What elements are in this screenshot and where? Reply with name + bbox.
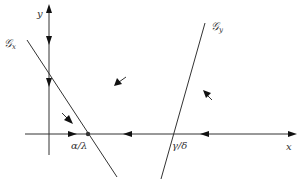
flow-arrow-down-icon: [46, 36, 52, 45]
point-gamma-delta-label: γ/δ: [172, 140, 187, 151]
x-axis-label: x: [286, 141, 292, 152]
flow-arrow-up-left-icon: [203, 90, 212, 100]
flow-arrow-right-icon: [68, 131, 77, 137]
flow-arrow-down-left-icon: [114, 77, 126, 86]
nullcline-gx: [27, 40, 117, 177]
flow-arrow-down-right-icon: [62, 113, 73, 124]
nullcline-gx-label: 𝒢x: [4, 37, 16, 51]
x-axis-arrow-icon: [288, 131, 297, 137]
flow-arrow-left-icon: [123, 131, 132, 137]
y-axis-arrow-icon: [46, 4, 52, 13]
equilibrium-point: [86, 132, 90, 136]
flow-arrow-left-icon: [200, 131, 209, 137]
nullcline-gy: [161, 23, 205, 179]
y-axis: [46, 4, 52, 155]
y-axis-label: y: [36, 8, 43, 19]
phase-diagram: y x 𝒢x 𝒢y α/λ γ/δ: [0, 0, 305, 189]
point-alpha-lambda-label: α/λ: [71, 140, 87, 151]
flow-arrow-down-icon: [46, 78, 52, 87]
nullcline-gy-label: 𝒢y: [211, 20, 224, 34]
x-axis: [25, 131, 297, 137]
